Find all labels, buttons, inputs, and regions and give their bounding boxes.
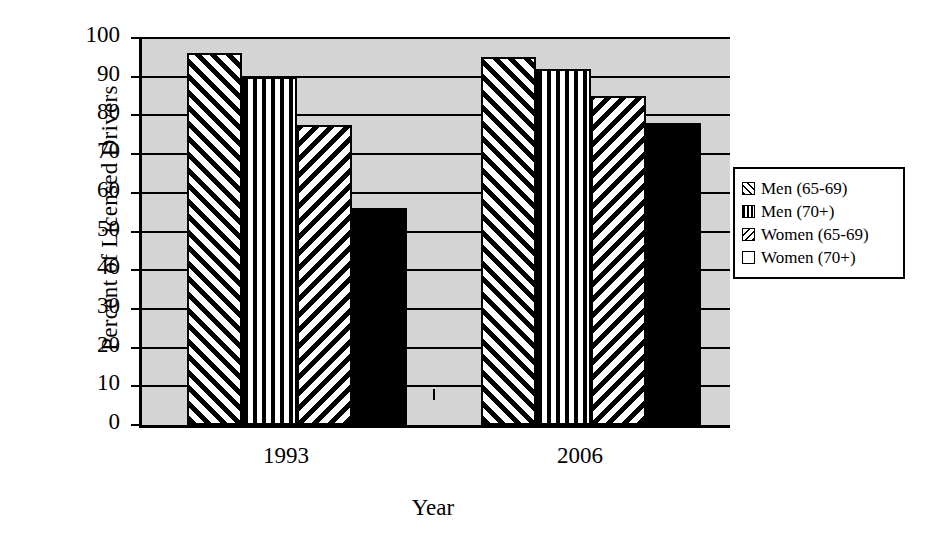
- bar: [352, 208, 407, 425]
- y-axis-tick-label: 30: [50, 293, 120, 319]
- y-axis-tick: [131, 114, 142, 116]
- y-axis-tick-label: 50: [50, 216, 120, 242]
- bar: [536, 69, 591, 425]
- legend-item-men-65-69[interactable]: Men (65-69): [742, 177, 897, 200]
- bar: [646, 123, 701, 425]
- legend-label: Women (70+): [761, 249, 856, 266]
- y-axis-tick-label: 80: [50, 99, 120, 125]
- chart-legend: Men (65-69) Men (70+) Women (65-69) Wome…: [733, 167, 905, 279]
- y-axis-tick: [131, 347, 142, 349]
- x-axis-title: Year: [139, 495, 727, 521]
- legend-label: Men (70+): [761, 203, 834, 220]
- bar: [187, 53, 242, 425]
- y-axis-tick-label: 40: [50, 254, 120, 280]
- bar: [297, 125, 352, 425]
- y-axis-tick: [131, 153, 142, 155]
- bar-chart-figure: Percent of Licensed Drivers 010203040506…: [0, 0, 942, 545]
- y-axis-tick: [131, 308, 142, 310]
- y-axis-tick-label: 10: [50, 370, 120, 396]
- y-axis-tick: [131, 76, 142, 78]
- legend-item-women-70-plus[interactable]: Women (70+): [742, 246, 897, 269]
- y-axis-tick: [131, 231, 142, 233]
- legend-swatch-solid-black-icon: [742, 251, 755, 264]
- y-axis-tick: [131, 37, 142, 39]
- plot-inner: 0102030405060708090100: [142, 38, 730, 425]
- legend-label: Women (65-69): [761, 226, 869, 243]
- y-axis-tick-label: 20: [50, 332, 120, 358]
- legend-item-women-65-69[interactable]: Women (65-69): [742, 223, 897, 246]
- legend-label: Men (65-69): [761, 180, 847, 197]
- x-axis-tick-label: 1993: [216, 443, 356, 469]
- y-axis-tick-label: 90: [50, 61, 120, 87]
- legend-swatch-vertical-stripe-icon: [742, 205, 755, 218]
- y-axis-tick-label: 70: [50, 138, 120, 164]
- legend-swatch-diagonal-up-icon: [742, 182, 755, 195]
- bar: [591, 96, 646, 425]
- y-axis-tick: [131, 385, 142, 387]
- bar: [242, 77, 297, 425]
- bar: [481, 57, 536, 425]
- y-axis-tick-label: 60: [50, 177, 120, 203]
- y-axis-tick-label: 0: [50, 409, 120, 435]
- legend-item-men-70-plus[interactable]: Men (70+): [742, 200, 897, 223]
- y-axis-tick: [131, 269, 142, 271]
- y-axis-tick: [131, 192, 142, 194]
- plot-area: 0102030405060708090100: [139, 38, 730, 428]
- y-axis-tick-label: 100: [50, 22, 120, 48]
- y-axis-tick: [131, 424, 142, 426]
- gridline: [142, 37, 730, 39]
- x-axis-tick-label: 2006: [510, 443, 650, 469]
- x-axis-tick: [433, 389, 435, 400]
- legend-swatch-diagonal-down-icon: [742, 228, 755, 241]
